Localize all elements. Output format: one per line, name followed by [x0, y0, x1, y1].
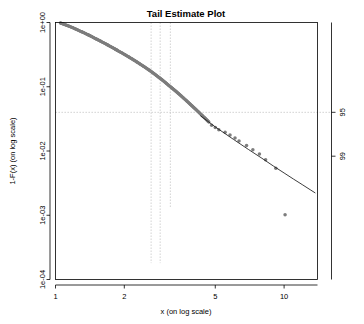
right-axis-tick-label: 99 [338, 152, 347, 160]
x-axis-tick-label: 1 [53, 292, 57, 301]
y-axis-tick-label: 1e+00 [38, 12, 47, 33]
y-axis-tick-label: 1e-02 [38, 141, 47, 160]
figure-background [0, 0, 364, 324]
x-axis-tick-label: 10 [280, 292, 288, 301]
tail-estimate-plot-figure: Tail Estimate Plot 12510 1e+001e-011e-02… [0, 0, 364, 324]
data-point [251, 148, 255, 152]
x-axis-label: x (on log scale) [161, 307, 212, 316]
data-point [245, 144, 249, 148]
y-axis-tick-label: 1e-03 [38, 206, 47, 225]
right-axis-tick-label: 95 [338, 108, 347, 116]
y-axis-tick-label: 1e-04 [38, 270, 47, 289]
x-axis-tick-label: 2 [122, 292, 126, 301]
y-axis-tick-label: 1e-01 [38, 77, 47, 96]
x-axis-tick-label: 5 [213, 292, 217, 301]
chart-title: Tail Estimate Plot [147, 8, 226, 19]
data-point [283, 213, 287, 217]
data-point [258, 152, 262, 156]
chart-canvas: Tail Estimate Plot 12510 1e+001e-011e-02… [0, 0, 364, 324]
y-axis-label: 1-F(x) (on log scale) [8, 117, 17, 185]
